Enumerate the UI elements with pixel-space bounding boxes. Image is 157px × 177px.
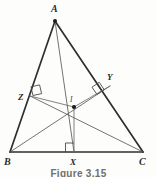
label-incenter: I: [69, 95, 73, 104]
cevian-A-to-X: [55, 21, 74, 152]
label-vertex-b: B: [3, 156, 11, 167]
label-point-y: Y: [107, 72, 114, 82]
triangle-diagram-svg: A B C X Y Z I: [0, 0, 157, 177]
label-vertex-a: A: [50, 3, 58, 14]
label-point-x: X: [69, 157, 77, 167]
cevian-C-to-Z: [30, 96, 143, 152]
label-point-z: Z: [17, 92, 24, 102]
geometry-figure: A B C X Y Z I Figure 3.15: [0, 0, 157, 177]
inradius-I-to-Y: [74, 86, 110, 107]
inradius-I-to-Z: [30, 96, 74, 107]
label-vertex-c: C: [139, 156, 146, 167]
vertex-point-a: [53, 19, 57, 23]
figure-caption: Figure 3.15: [0, 168, 157, 177]
side-CA: [55, 21, 143, 152]
incenter-point: [72, 105, 76, 109]
right-angle-mark-z: [31, 85, 42, 96]
cevian-B-to-Y: [10, 86, 110, 152]
